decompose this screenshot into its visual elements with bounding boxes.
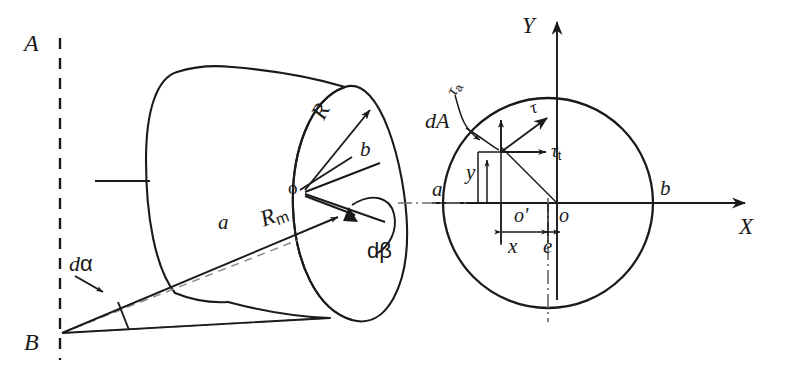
label-d-alpha-symbol: α [80, 251, 93, 276]
label-center-o: o [288, 178, 298, 197]
technical-diagram: A B o a b R Rm dα dβ Y X o o' a b dA x y… [0, 0, 787, 388]
label-axis-A: A [24, 31, 39, 55]
label-centroid-o-prime: o' [514, 205, 528, 225]
radius-construction-lines [62, 157, 352, 333]
dA-projection-lines [478, 147, 557, 245]
stress-arrows [501, 118, 547, 152]
label-tau-t-sub: t [558, 148, 562, 163]
label-dim-x: x [508, 236, 517, 257]
label-tau-t-base: τ [551, 140, 558, 161]
d-alpha-arrow [75, 276, 103, 292]
label-tau-t: τt [551, 141, 561, 163]
label-d-alpha: dα [69, 253, 93, 275]
label-dim-y: y [466, 162, 475, 183]
center-radius-arrows [305, 110, 385, 222]
label-circle-point-a: a [432, 179, 443, 200]
cylinder-solid [146, 66, 407, 321]
label-d-beta-symbol: β [379, 238, 392, 263]
label-origin-o: o [559, 205, 569, 225]
y-axis [548, 22, 557, 322]
label-axis-X: X [739, 215, 753, 238]
label-area-element-dA: dA [425, 110, 449, 132]
tau-a-leader [455, 95, 480, 140]
dA-leader [466, 128, 499, 150]
label-eccentricity-e: e [543, 236, 552, 257]
label-d-beta: dβ [367, 240, 392, 262]
label-d-beta-d: d [367, 238, 379, 263]
construction-lines-dashed [62, 240, 330, 333]
label-d-alpha-d: d [69, 251, 80, 276]
label-point-b: b [360, 139, 371, 160]
label-axis-B: B [24, 330, 39, 354]
label-axis-Y: Y [522, 14, 535, 37]
label-point-a: a [218, 212, 229, 233]
label-circle-point-b: b [660, 178, 671, 199]
